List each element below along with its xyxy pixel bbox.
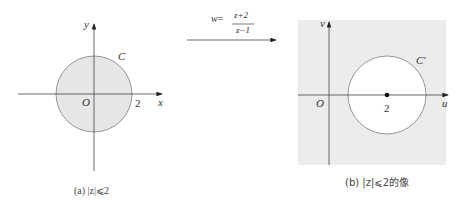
origin-label-a: O	[82, 96, 90, 108]
curve-c-label: C	[118, 50, 125, 62]
tick-2-label: 2	[135, 97, 141, 109]
v-axis-label: v	[320, 17, 325, 29]
y-axis-label: y	[84, 18, 89, 30]
formula-lhs: w=	[211, 13, 223, 24]
center-2-label: 2	[384, 102, 390, 114]
u-axis-label: u	[442, 97, 448, 109]
caption-b: (b) |z|⩽2的像	[345, 174, 409, 189]
w-symbol: w	[211, 13, 218, 24]
formula-denominator: z−1	[236, 25, 250, 35]
formula-numerator: z+2	[234, 10, 248, 20]
origin-label-b: O	[316, 97, 324, 109]
x-axis-label: x	[158, 96, 163, 108]
equals-sign: =	[218, 13, 224, 24]
caption-a: (a) |z|⩽2	[74, 185, 109, 196]
curve-c-prime-label: C′	[416, 54, 426, 66]
